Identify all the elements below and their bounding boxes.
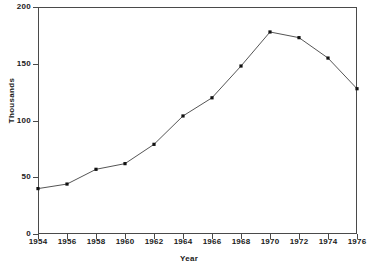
y-tick-label: 50 (22, 173, 32, 181)
x-tick-label: 1958 (87, 238, 106, 246)
x-tick-mark (67, 234, 68, 239)
series-markers (36, 30, 358, 190)
y-tick-mark (33, 121, 38, 122)
data-point-marker (36, 187, 39, 190)
data-point-marker (152, 143, 155, 146)
data-point-marker (94, 168, 97, 171)
x-tick-mark (328, 234, 329, 239)
y-tick-label: 100 (17, 117, 31, 125)
data-point-marker (181, 114, 184, 117)
data-point-marker (65, 182, 68, 185)
x-tick-label: 1964 (174, 238, 193, 246)
x-tick-mark (299, 234, 300, 239)
x-tick-mark (357, 234, 358, 239)
data-point-marker (123, 162, 126, 165)
x-tick-label: 1968 (232, 238, 251, 246)
x-tick-mark (154, 234, 155, 239)
x-tick-label: 1972 (290, 238, 309, 246)
data-point-marker (268, 30, 271, 33)
x-tick-mark (96, 234, 97, 239)
x-tick-label: 1970 (261, 238, 280, 246)
x-tick-label: 1962 (145, 238, 164, 246)
x-tick-mark (38, 234, 39, 239)
y-tick-label: 200 (17, 3, 31, 11)
data-point-marker (239, 64, 242, 67)
data-series-line (38, 7, 357, 234)
x-tick-label: 1966 (203, 238, 222, 246)
x-tick-label: 1976 (348, 238, 367, 246)
x-axis-title: Year (0, 254, 378, 263)
data-point-marker (326, 56, 329, 59)
x-tick-label: 1954 (29, 238, 48, 246)
series-polyline (38, 32, 357, 189)
data-point-marker (210, 96, 213, 99)
x-tick-mark (125, 234, 126, 239)
x-tick-label: 1960 (116, 238, 135, 246)
x-tick-mark (270, 234, 271, 239)
y-tick-label: 150 (17, 60, 31, 68)
y-tick-mark (33, 64, 38, 65)
y-tick-mark (33, 7, 38, 8)
x-tick-mark (212, 234, 213, 239)
data-point-marker (297, 36, 300, 39)
x-tick-label: 1974 (319, 238, 338, 246)
y-axis-title: Thousands (7, 66, 16, 136)
x-tick-label: 1956 (58, 238, 77, 246)
y-tick-mark (33, 177, 38, 178)
x-tick-mark (183, 234, 184, 239)
line-chart: 050100150200 195419561958196019621964196… (0, 0, 378, 272)
x-tick-mark (241, 234, 242, 239)
y-axis-tick-labels: 050100150200 (0, 0, 31, 272)
data-point-marker (355, 87, 358, 90)
